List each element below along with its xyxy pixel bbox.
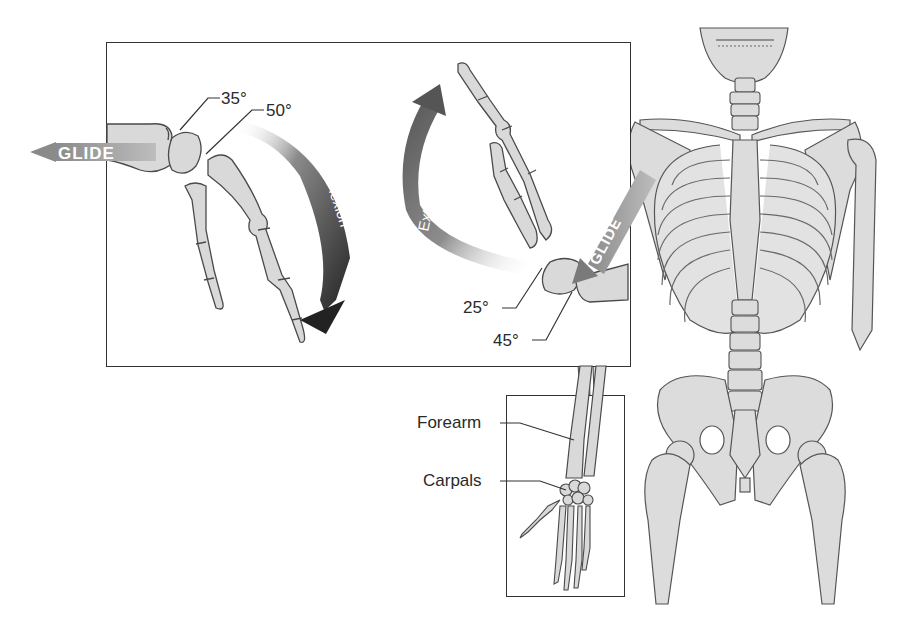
hand-inset-diagram (0, 0, 907, 624)
metacarpal-phalange-bones (520, 500, 590, 590)
carpals-label: Carpals (423, 472, 482, 489)
inset-leader-lines (500, 423, 574, 490)
forearm-label: Forearm (417, 414, 481, 431)
forearm-bones (566, 366, 606, 478)
carpal-bones (560, 480, 593, 505)
